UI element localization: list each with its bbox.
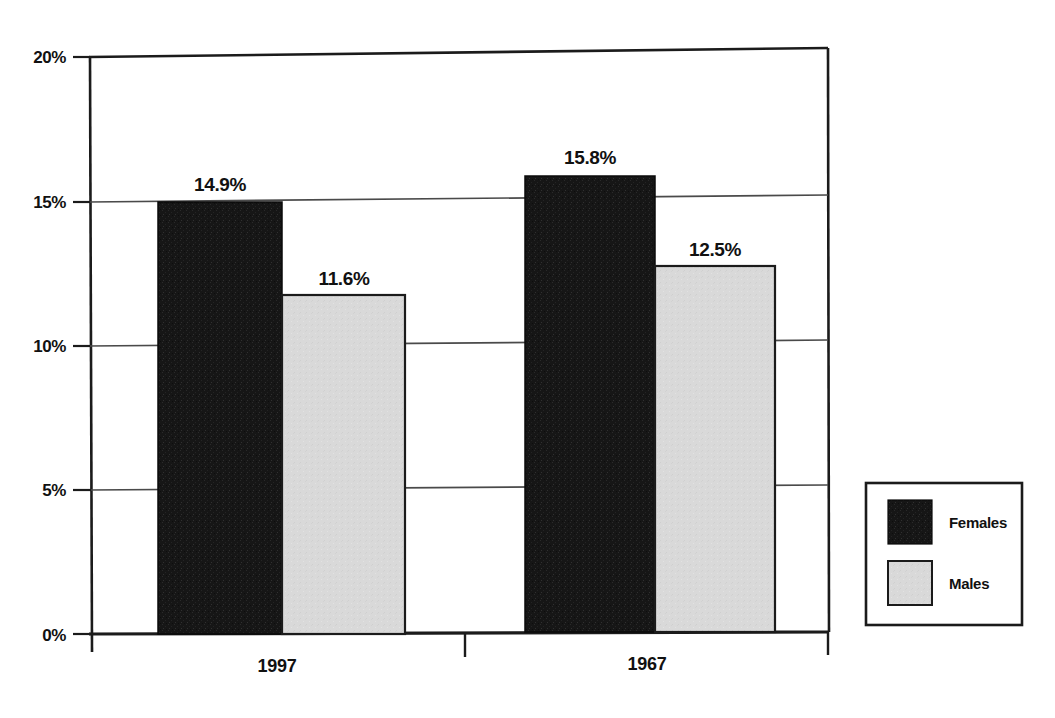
bar-1967-males[interactable] (655, 266, 775, 632)
value-label-1997-females: 14.9% (194, 174, 246, 195)
bar-1967-females[interactable] (525, 176, 655, 632)
value-label-1997-males: 11.6% (319, 268, 370, 289)
bar-1997-males[interactable] (282, 295, 405, 634)
category-label-1997: 1997 (258, 656, 297, 676)
legend-label-females: Females (949, 514, 1007, 531)
value-label-1967-males: 12.5% (689, 239, 741, 260)
category-label-1967: 1967 (628, 654, 667, 674)
bar-chart: 20% 15% 10% 5% 0% 14.9% 11.6% 15.8% 12.5… (0, 0, 1055, 718)
bar-1997-females[interactable] (158, 202, 282, 634)
y-tick-label-0: 0% (42, 626, 66, 645)
chart-legend: Females Males (866, 483, 1022, 625)
chart-canvas: 20% 15% 10% 5% 0% 14.9% 11.6% 15.8% 12.5… (0, 0, 1055, 718)
y-tick-label-20: 20% (33, 48, 66, 67)
y-tick-label-15: 15% (33, 193, 66, 212)
y-tick-label-10: 10% (33, 337, 66, 356)
legend-label-males: Males (949, 575, 989, 592)
value-label-1967-females: 15.8% (564, 147, 616, 168)
plot-right-border (828, 48, 829, 632)
y-tick-label-5: 5% (42, 481, 66, 500)
legend-swatch-females-icon (888, 500, 932, 544)
legend-swatch-males-icon (888, 561, 932, 605)
